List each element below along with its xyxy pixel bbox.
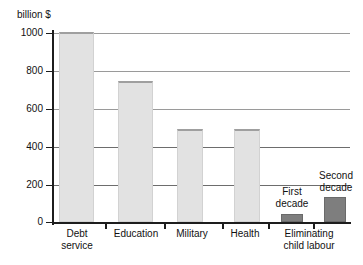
- annotation-second-decade: Second decade: [310, 170, 362, 194]
- y-axis-line: [52, 30, 54, 225]
- y-tick-label-0: 0: [9, 217, 43, 227]
- bar-military: [177, 129, 203, 222]
- x-label-debt-service: Debt service: [51, 228, 103, 252]
- y-tick-label-200: 200: [9, 180, 43, 190]
- gridline-1000: [53, 33, 350, 34]
- annotation-first-decade: First decade: [268, 186, 316, 210]
- bar-chart: billion $ 1000 800 600 400 200 0 Debt se…: [0, 0, 363, 265]
- y-axis-unit-label: billion $: [17, 9, 51, 21]
- gridline-800: [53, 71, 350, 72]
- y-tick-label-1000: 1000: [9, 28, 43, 38]
- bar-first-decade: [281, 214, 303, 222]
- x-axis-line: [52, 222, 351, 224]
- bar-debt-service: [59, 32, 94, 222]
- x-label-eliminating-child-labour: Eliminating child labour: [268, 228, 350, 252]
- x-label-health: Health: [221, 228, 269, 240]
- bar-second-decade: [324, 197, 346, 222]
- y-tick-label-800: 800: [9, 66, 43, 76]
- x-label-military: Military: [166, 228, 218, 240]
- gridline-600: [53, 109, 350, 110]
- y-tick-label-600: 600: [9, 104, 43, 114]
- bar-education: [118, 81, 153, 222]
- x-label-education: Education: [108, 228, 164, 240]
- bar-health: [234, 129, 260, 222]
- y-tick-label-400: 400: [9, 142, 43, 152]
- x-tick-mark-1: [105, 223, 107, 229]
